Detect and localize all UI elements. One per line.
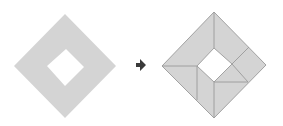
left-square-frame (14, 14, 116, 118)
right-figure (162, 12, 266, 118)
left-figure (14, 14, 116, 118)
dissection-diagram (0, 0, 283, 126)
right-arrow-icon (136, 59, 146, 71)
